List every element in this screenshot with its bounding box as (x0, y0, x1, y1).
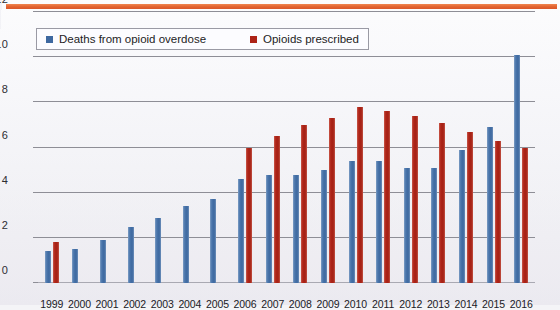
bar-deaths-2013[interactable] (431, 168, 437, 283)
bar-deaths-2004[interactable] (183, 206, 189, 283)
gridline-y-8 (38, 101, 535, 102)
y-axis-label-6: 6 (0, 129, 8, 141)
y-tickmark-0 (33, 282, 38, 283)
bar-prescribed-2013[interactable] (439, 123, 445, 283)
bar-prescribed-2014[interactable] (467, 132, 473, 283)
bar-prescribed-2009[interactable] (329, 118, 335, 283)
y-axis-label-2: 2 (0, 219, 8, 231)
y-axis-label-8: 8 (0, 83, 8, 95)
bar-deaths-2002[interactable] (128, 227, 134, 283)
y-axis-label-12: 12 (0, 0, 8, 5)
y-axis-label-4: 4 (0, 174, 8, 186)
bar-deaths-2005[interactable] (210, 199, 216, 283)
bar-prescribed-2016[interactable] (522, 148, 528, 284)
square-swatch-red-icon (250, 36, 257, 43)
bar-deaths-2003[interactable] (155, 218, 161, 283)
bar-deaths-2016[interactable] (514, 55, 520, 283)
y-tickmark-6 (33, 147, 38, 148)
bar-deaths-2000[interactable] (72, 249, 78, 283)
legend-label-prescribed: Opioids prescribed (263, 33, 359, 45)
gridline-y-12 (38, 11, 535, 12)
bar-prescribed-2007[interactable] (274, 136, 280, 283)
bar-deaths-2006[interactable] (238, 179, 244, 283)
y-axis-label-10: 10 (0, 38, 8, 50)
bar-deaths-2014[interactable] (459, 150, 465, 283)
gridline-y-6 (38, 147, 535, 148)
bar-deaths-2001[interactable] (100, 240, 106, 283)
y-tickmark-10 (33, 56, 38, 57)
bar-prescribed-2010[interactable] (357, 107, 363, 283)
bar-prescribed-2011[interactable] (384, 111, 390, 283)
bar-deaths-2012[interactable] (404, 168, 410, 283)
bar-deaths-1999[interactable] (45, 251, 51, 283)
bar-prescribed-2012[interactable] (412, 116, 418, 283)
x-axis-label-2016: 2016 (499, 298, 543, 310)
legend-item-prescribed[interactable]: Opioids prescribed (250, 33, 359, 45)
y-tickmark-4 (33, 192, 38, 193)
y-tickmark-8 (33, 101, 38, 102)
bar-deaths-2008[interactable] (293, 175, 299, 283)
legend-label-deaths: Deaths from opioid overdose (59, 33, 206, 45)
gridline-y-10 (38, 56, 535, 57)
square-swatch-blue-icon (46, 36, 53, 43)
bar-deaths-2007[interactable] (266, 175, 272, 283)
bar-prescribed-2006[interactable] (246, 148, 252, 284)
y-tickmark-2 (33, 237, 38, 238)
bar-prescribed-2008[interactable] (301, 125, 307, 283)
bar-deaths-2009[interactable] (321, 170, 327, 283)
chart-legend: Deaths from opioid overdose Opioids pres… (36, 28, 369, 50)
bar-deaths-2011[interactable] (376, 161, 382, 283)
bar-deaths-2010[interactable] (349, 161, 355, 283)
legend-item-deaths[interactable]: Deaths from opioid overdose (46, 33, 206, 45)
plot-area: 0246810121999200020012002200320042005200… (38, 12, 535, 283)
bar-prescribed-1999[interactable] (53, 242, 59, 283)
y-tickmark-12 (33, 11, 38, 12)
y-axis-label-0: 0 (0, 264, 8, 276)
bar-deaths-2015[interactable] (487, 127, 493, 283)
bar-prescribed-2015[interactable] (495, 141, 501, 283)
